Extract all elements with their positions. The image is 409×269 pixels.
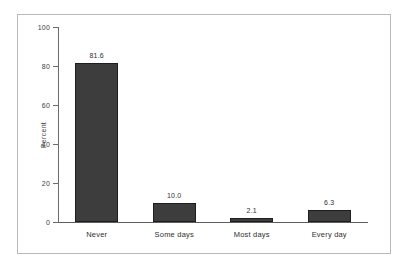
bar[interactable]: 6.3 (308, 210, 351, 222)
plot-area: 020406080100 81.610.02.16.3 NeverSome da… (58, 27, 368, 223)
bar[interactable]: 2.1 (230, 218, 273, 222)
bar-rect (75, 63, 118, 222)
y-axis-tick-label: 80 (42, 63, 50, 70)
y-axis-tick-mark (53, 105, 59, 106)
y-axis-tick-label: 40 (42, 141, 50, 148)
x-axis-category-label: Some days (155, 230, 194, 239)
x-axis-category-label: Never (86, 230, 107, 239)
y-axis-tick-label: 20 (42, 180, 50, 187)
y-axis-tick-mark (53, 144, 59, 145)
y-axis-tick-label: 100 (38, 24, 50, 31)
bar-value-label: 6.3 (324, 199, 334, 206)
x-axis-category-label: Most days (234, 230, 270, 239)
bar-value-label: 10.0 (167, 192, 181, 199)
bar-rect (153, 203, 196, 223)
y-axis-tick-mark (53, 27, 59, 28)
bar[interactable]: 10.0 (153, 203, 196, 223)
bar-value-label: 81.6 (90, 52, 104, 59)
bar[interactable]: 81.6 (75, 63, 118, 222)
y-axis-line (58, 27, 59, 223)
y-axis-tick-mark (53, 183, 59, 184)
y-axis-tick-mark (53, 222, 59, 223)
y-axis-tick-label: 60 (42, 102, 50, 109)
x-axis-category-label: Every day (312, 230, 347, 239)
figure-root: Percent 020406080100 81.610.02.16.3 Neve… (0, 0, 409, 269)
x-axis-line (58, 222, 368, 223)
bar-value-label: 2.1 (247, 207, 257, 214)
bar-rect (230, 218, 273, 222)
bar-rect (308, 210, 351, 222)
y-axis-tick-mark (53, 66, 59, 67)
y-axis-tick-label: 0 (46, 219, 50, 226)
